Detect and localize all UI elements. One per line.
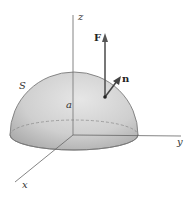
x-axis-label: x xyxy=(22,179,28,190)
surface-label: S xyxy=(19,80,26,91)
y-axis-label: y xyxy=(176,136,183,147)
force-label: F xyxy=(94,32,101,43)
hemisphere-diagram: z F n S a y x xyxy=(0,0,185,199)
radius-label: a xyxy=(66,99,72,110)
z-axis-label: z xyxy=(77,11,84,22)
contact-point xyxy=(103,95,107,99)
normal-label: n xyxy=(122,73,130,84)
